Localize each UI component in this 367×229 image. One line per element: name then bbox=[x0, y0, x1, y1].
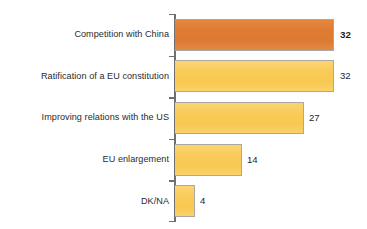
value-label-eu-enlargement: 14 bbox=[247, 155, 258, 165]
bar-container bbox=[175, 185, 195, 217]
bar-row: Competition with China 32 bbox=[0, 14, 367, 56]
bar-row: Improving relations with the US 27 bbox=[0, 97, 367, 139]
bar-improving-relations-with-the-us[interactable] bbox=[175, 102, 304, 134]
bar-container bbox=[175, 60, 334, 92]
bar-row: EU enlargement 14 bbox=[0, 139, 367, 181]
bar-container bbox=[175, 19, 334, 51]
category-label-dk-na: DK/NA bbox=[1, 197, 169, 206]
category-label-competition-with-china: Competition with China bbox=[1, 30, 169, 39]
value-label-competition-with-china: 32 bbox=[340, 30, 351, 40]
bar-dk-na[interactable] bbox=[175, 185, 195, 217]
value-label-ratification-of-a-eu-constitution: 32 bbox=[340, 72, 351, 82]
category-label-ratification-of-a-eu-constitution: Ratification of a EU constitution bbox=[1, 72, 169, 81]
plot-area: Competition with China 32 Ratification o… bbox=[0, 0, 367, 229]
category-label-eu-enlargement: EU enlargement bbox=[1, 155, 169, 164]
bar-container bbox=[175, 144, 242, 176]
bar-ratification-of-a-eu-constitution[interactable] bbox=[175, 60, 334, 92]
bar-row: DK/NA 4 bbox=[0, 180, 367, 222]
bar-row: Ratification of a EU constitution 32 bbox=[0, 56, 367, 98]
bar-competition-with-china[interactable] bbox=[175, 19, 334, 51]
bar-eu-enlargement[interactable] bbox=[175, 144, 242, 176]
category-label-improving-relations-with-the-us: Improving relations with the US bbox=[1, 113, 169, 122]
value-label-dk-na: 4 bbox=[200, 196, 205, 206]
bar-container bbox=[175, 102, 304, 134]
bar-chart: Competition with China 32 Ratification o… bbox=[0, 0, 367, 229]
value-label-improving-relations-with-the-us: 27 bbox=[309, 113, 320, 123]
